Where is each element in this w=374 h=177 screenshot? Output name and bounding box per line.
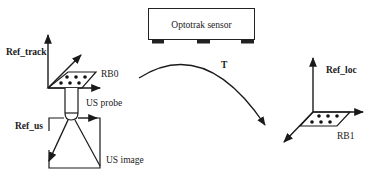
ref-track-label: Ref_track (6, 48, 47, 58)
ref-us-label: Ref_us (15, 122, 43, 132)
us-probe-shape (65, 88, 78, 120)
sensor-feet (152, 40, 254, 44)
rb1-rigid-body (300, 112, 350, 126)
us-probe-label: US probe (86, 99, 122, 109)
transform-t-label: T (221, 61, 227, 71)
tracking-setup-diagram: Optotrak sensor Ref_track RB0 US probe R… (0, 0, 374, 177)
ref-track-axes (48, 35, 100, 88)
rb1-label: RB1 (337, 132, 354, 142)
rb0-label: RB0 (101, 70, 118, 80)
transform-t-arrow (139, 65, 265, 125)
us-image-label: US image (106, 156, 144, 166)
optotrak-sensor: Optotrak sensor (148, 8, 255, 40)
ref-loc-label: Ref_loc (326, 66, 357, 76)
optotrak-sensor-label: Optotrak sensor (149, 20, 254, 30)
us-image-box (49, 118, 100, 168)
